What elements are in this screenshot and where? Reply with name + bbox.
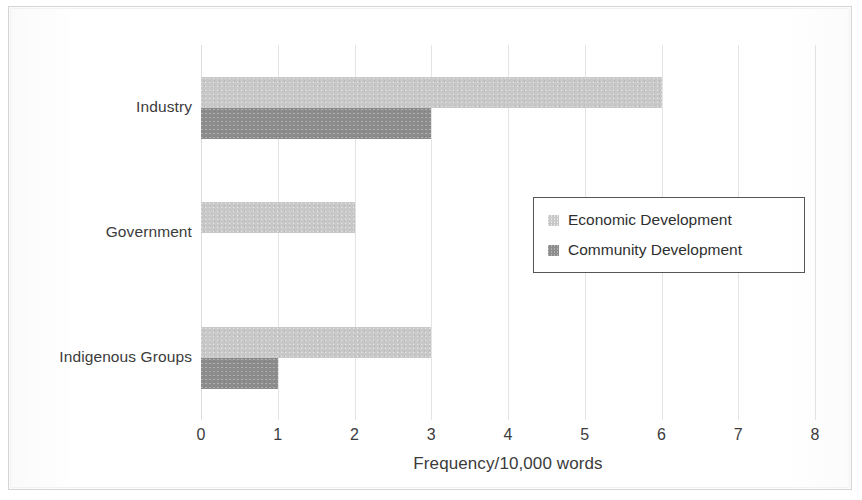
community-swatch-icon bbox=[548, 245, 559, 256]
category-label-indigenous-groups: Indigenous Groups bbox=[12, 348, 192, 366]
x-tick-label-1: 1 bbox=[258, 426, 298, 444]
bar-indigenous-groups-economic-development[interactable] bbox=[201, 327, 431, 358]
economic-swatch-icon bbox=[548, 215, 559, 226]
gridline-8 bbox=[815, 45, 816, 420]
bar-indigenous-groups-community-development[interactable] bbox=[201, 358, 278, 389]
bar-fill bbox=[201, 202, 355, 233]
chart-frame: IndustryGovernmentIndigenous Groups 0123… bbox=[8, 6, 852, 490]
bar-fill bbox=[201, 358, 278, 389]
x-tick-label-6: 6 bbox=[642, 426, 682, 444]
category-axis-labels: IndustryGovernmentIndigenous Groups bbox=[9, 45, 192, 420]
bar-fill bbox=[201, 108, 431, 139]
legend-entry-economic[interactable]: Economic Development bbox=[548, 205, 804, 235]
x-tick-label-8: 8 bbox=[795, 426, 835, 444]
x-tick-label-7: 7 bbox=[718, 426, 758, 444]
bar-industry-community-development[interactable] bbox=[201, 108, 431, 139]
chart-figure: IndustryGovernmentIndigenous Groups 0123… bbox=[0, 0, 862, 500]
x-axis-tick-labels: 012345678 bbox=[201, 426, 815, 450]
x-axis-title: Frequency/10,000 words bbox=[201, 454, 815, 474]
bar-industry-economic-development[interactable] bbox=[201, 77, 662, 108]
x-tick-label-2: 2 bbox=[335, 426, 375, 444]
bar-government-economic-development[interactable] bbox=[201, 202, 355, 233]
bar-fill bbox=[201, 77, 662, 108]
bar-fill bbox=[201, 327, 431, 358]
legend-label-community: Community Development bbox=[568, 241, 742, 259]
x-tick-label-0: 0 bbox=[181, 426, 221, 444]
legend-entry-community[interactable]: Community Development bbox=[548, 235, 804, 265]
chart-legend: Economic Development Community Developme… bbox=[533, 197, 805, 273]
x-tick-label-3: 3 bbox=[411, 426, 451, 444]
legend-label-economic: Economic Development bbox=[568, 211, 732, 229]
category-label-industry: Industry bbox=[12, 98, 192, 116]
x-tick-label-5: 5 bbox=[565, 426, 605, 444]
category-label-government: Government bbox=[12, 223, 192, 241]
x-tick-label-4: 4 bbox=[488, 426, 528, 444]
